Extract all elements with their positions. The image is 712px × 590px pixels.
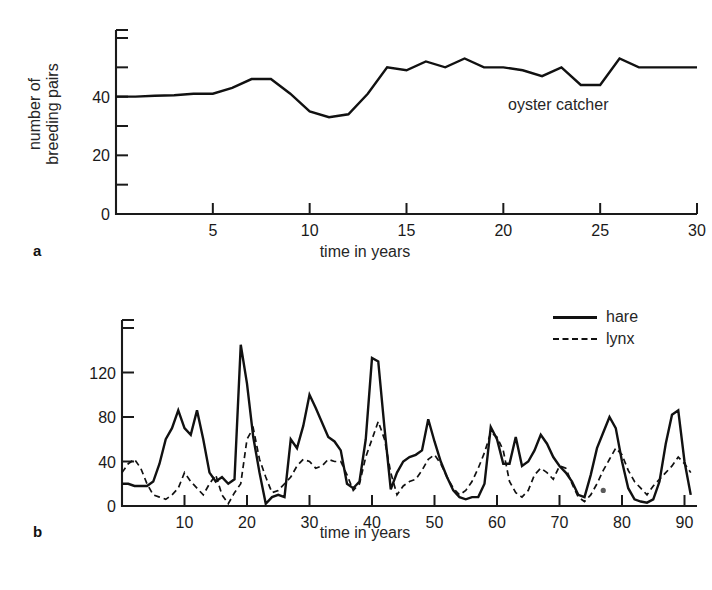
chart-a-y-tick-label: 0 bbox=[101, 206, 110, 223]
chart-b-x-tick-label: 90 bbox=[676, 514, 694, 531]
legend-swatch-dashed-icon bbox=[553, 333, 597, 345]
chart-a-plot: 0204051015202530 bbox=[0, 0, 712, 290]
chart-b-x-tick-label: 80 bbox=[613, 514, 631, 531]
figure-container: number of breeding pairs time in years o… bbox=[0, 0, 712, 590]
chart-b-x-tick-label: 10 bbox=[176, 514, 194, 531]
chart-b-y-tick-label: 0 bbox=[107, 498, 116, 515]
chart-a-x-tick-label: 5 bbox=[208, 222, 217, 239]
chart-b-x-tick-label: 70 bbox=[551, 514, 569, 531]
chart-b-series-hare bbox=[122, 345, 691, 504]
chart-a-y-tick-label: 40 bbox=[92, 89, 110, 106]
chart-b-scan-speck bbox=[601, 488, 606, 493]
panel-label-b: b bbox=[33, 523, 42, 540]
legend-label-lynx: lynx bbox=[606, 331, 634, 347]
chart-a-series-oyster catcher bbox=[116, 59, 697, 118]
chart-b-y-tick-label: 80 bbox=[98, 409, 116, 426]
chart-a-x-tick-label: 15 bbox=[398, 222, 416, 239]
chart-a-axis-spine bbox=[116, 30, 697, 214]
chart-b-marks bbox=[601, 488, 606, 493]
legend-item-hare: hare bbox=[553, 306, 638, 328]
chart-panel-a: number of breeding pairs time in years o… bbox=[0, 0, 712, 290]
chart-b-legend: hare lynx bbox=[553, 306, 638, 350]
chart-a-y-tick-label: 20 bbox=[92, 147, 110, 164]
chart-a-x-tick-label: 30 bbox=[688, 222, 706, 239]
panel-label-a: a bbox=[33, 242, 41, 259]
chart-a-x-tick-label: 10 bbox=[301, 222, 319, 239]
chart-a-axes bbox=[116, 30, 697, 214]
chart-a-x-tick-label: 25 bbox=[591, 222, 609, 239]
chart-b-series-group bbox=[122, 345, 691, 504]
chart-b-x-axis-label: time in years bbox=[200, 524, 530, 542]
legend-item-lynx: lynx bbox=[553, 328, 638, 350]
chart-b-y-tick-label: 40 bbox=[98, 454, 116, 471]
legend-swatch-solid-icon bbox=[553, 311, 597, 323]
chart-a-x-tick-label: 20 bbox=[494, 222, 512, 239]
chart-b-y-tick-label: 120 bbox=[89, 365, 116, 382]
chart-a-series-group bbox=[116, 59, 697, 118]
chart-a-ticks bbox=[116, 30, 697, 214]
legend-label-hare: hare bbox=[606, 309, 638, 325]
chart-a-tick-labels: 0204051015202530 bbox=[92, 89, 706, 239]
